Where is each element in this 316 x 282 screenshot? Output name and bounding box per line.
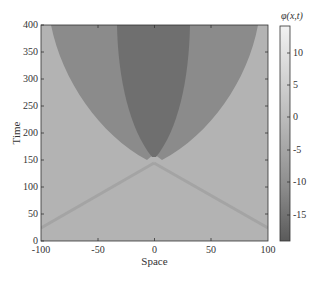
y-tick-label: 350 [23,46,38,57]
colorbar-tick-label: -15 [293,209,306,220]
x-tick-label: -50 [91,244,104,255]
x-axis-label: Space [141,255,167,267]
colorbar-tick-label: 10 [293,47,303,58]
y-tick-label: 300 [23,73,38,84]
y-tick-label: 200 [23,127,38,138]
y-tick-label: 150 [23,154,38,165]
x-tick-label: -100 [32,244,50,255]
colorbar-label: φ(x,t) [281,10,304,22]
figure: 0 50 100 150 200 250 300 350 400 -100 -5… [0,0,316,282]
colorbar: 10 5 0 -5 -10 -15 φ(x,t) [280,10,306,241]
x-tick-label: 0 [152,244,157,255]
y-axis-label: Time [10,121,22,144]
y-tick-label: 400 [23,19,38,30]
colorbar-tick-label: -5 [293,144,301,155]
colorbar-tick-label: 0 [293,111,298,122]
y-tick-label: 250 [23,100,38,111]
colorbar-tick-label: -10 [293,176,306,187]
y-tick-label: 100 [23,181,38,192]
x-tick-label: 50 [206,244,216,255]
x-tick-label: 100 [261,244,276,255]
heatmap [41,25,268,241]
colorbar-tick-label: 5 [293,79,298,90]
y-tick-label: 50 [28,208,38,219]
colorbar-gradient [280,26,290,241]
